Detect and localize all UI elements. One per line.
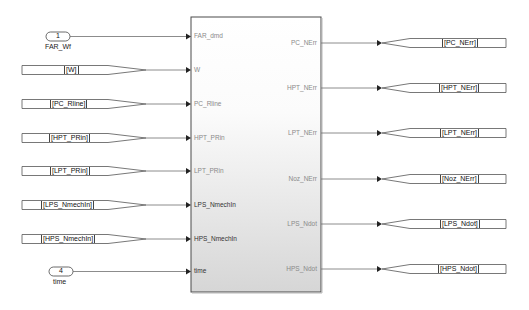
output-port-label: LPS_Ndot [287, 220, 317, 228]
input-port-label: PC_Rline [194, 100, 221, 108]
inport-name: FAR_Wf [45, 42, 71, 51]
goto-tag-label: [PC_NErr] [442, 39, 478, 47]
inport-number: 4 [51, 267, 71, 275]
goto-tag-label: [Noz_NErr] [440, 175, 479, 183]
input-port-label: LPS_NmechIn [194, 201, 236, 209]
subsystem-block[interactable] [191, 17, 322, 293]
from-tag-lpt-prin[interactable] [22, 167, 191, 176]
from-tag-label: [LPT_PRin] [50, 167, 90, 175]
goto-tag-label: [LPS_Ndot] [440, 220, 480, 228]
from-tag-pc-rline[interactable] [22, 100, 191, 109]
input-port-label: W [194, 66, 200, 74]
inport-number: 1 [48, 32, 68, 40]
from-tag-hpt-prin[interactable] [22, 134, 191, 143]
output-port-label: LPT_NErr [288, 129, 317, 137]
output-port-label: PC_NErr [291, 39, 317, 47]
from-tag-label: [PC_Rline] [50, 100, 87, 108]
output-port-label: HPT_NErr [287, 84, 317, 92]
goto-tag-label: [HPS_Ndot] [438, 265, 479, 273]
goto-tag-pc-nerr[interactable] [321, 39, 506, 48]
input-port-label: HPT_PRin [194, 134, 225, 142]
input-port-label: LPT_PRin [194, 167, 224, 175]
from-tag-label: [HPT_PRin] [49, 134, 90, 142]
output-port-label: HPS_Ndot [286, 265, 317, 273]
from-tag-label: [W] [64, 66, 79, 74]
from-tag-w[interactable] [22, 66, 191, 75]
input-port-label: HPS_NmechIn [194, 235, 237, 243]
from-tag-label: [HPS_NmechIn] [41, 235, 95, 243]
input-port-label: time [194, 267, 206, 275]
goto-tag-label: [HPT_NErr] [439, 84, 479, 92]
from-tag-label: [LPS_NmechIn] [41, 201, 94, 209]
goto-tag-label: [LPT_NErr] [440, 129, 479, 137]
inport-name: time [53, 277, 66, 286]
input-port-label: FAR_dmd [194, 32, 223, 40]
output-port-label: Noz_NErr [288, 175, 317, 183]
